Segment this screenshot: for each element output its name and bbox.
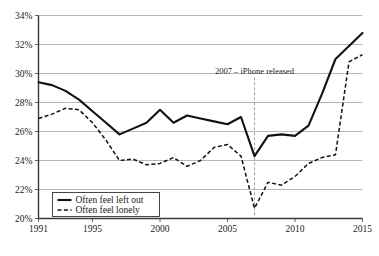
y-tick-label: 34% (15, 11, 33, 21)
line-chart: 20%22%24%26%28%30%32%34% 199119952000200… (0, 0, 379, 256)
y-tick-label: 28% (15, 98, 33, 108)
y-tick-label: 32% (15, 40, 33, 50)
y-tick-label: 24% (15, 156, 33, 166)
y-tick-label: 26% (15, 127, 33, 137)
x-tick-label: 1995 (83, 224, 102, 234)
annotation-iphone-release: 2007 – iPhone released (215, 66, 295, 76)
legend-label-often-feel-left-out: Often feel left out (76, 195, 144, 205)
x-tick-label: 2015 (353, 224, 372, 234)
x-tick-label: 2005 (218, 224, 237, 234)
legend: Often feel left out Often feel lonely (53, 193, 160, 217)
x-tick-label: 1991 (29, 224, 48, 234)
chart-container: 20%22%24%26%28%30%32%34% 199119952000200… (0, 0, 379, 256)
legend-label-often-feel-lonely: Often feel lonely (76, 205, 141, 215)
y-tick-label: 30% (15, 69, 33, 79)
y-tick-label: 22% (15, 185, 33, 195)
x-tick-label: 2010 (286, 224, 305, 234)
chart-background (0, 0, 379, 256)
y-tick-label: 20% (15, 214, 33, 224)
x-tick-label: 2000 (151, 224, 170, 234)
